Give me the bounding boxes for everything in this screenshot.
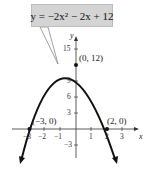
y-axis-label: y xyxy=(70,32,74,40)
y-tick-label: 6 xyxy=(67,93,71,101)
x-tick-label: 1 xyxy=(89,133,93,141)
label-point-top: (0, 12) xyxy=(79,54,103,63)
callout-pointer xyxy=(40,27,58,64)
x-tick-label: −1 xyxy=(54,133,62,141)
x-axis-label: x xyxy=(139,133,143,141)
y-tick-label: −3 xyxy=(64,141,72,149)
point-vertex-y-intercept xyxy=(74,63,78,67)
y-tick-label: 15 xyxy=(63,45,71,53)
y-tick-label: 9 xyxy=(67,77,71,85)
x-tick-label: −2 xyxy=(38,133,46,141)
curve-arrow-left-icon xyxy=(19,156,25,164)
label-point-right: (2, 0) xyxy=(107,117,127,126)
x-tick-label: 3 xyxy=(120,133,124,141)
point-x-intercept-right xyxy=(105,127,109,131)
point-x-intercept-left xyxy=(28,127,32,131)
label-point-left: (−3, 0) xyxy=(32,117,57,126)
x-tick-label: 2 xyxy=(105,133,109,141)
x-tick-label: −3 xyxy=(23,133,31,141)
y-tick-label: 3 xyxy=(67,109,71,117)
curve-arrow-right-icon xyxy=(112,156,118,164)
x-axis-arrow-icon xyxy=(134,127,139,131)
equation-callout: y = −2x² − 2x + 12 xyxy=(31,4,113,27)
y-axis-arrow-icon xyxy=(74,36,78,41)
